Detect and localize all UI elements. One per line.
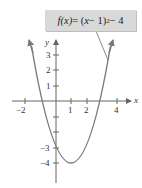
y-tick-label: 3 [46, 51, 51, 60]
callout-rest: − 1) [89, 15, 106, 26]
callout-tail: − 4 [110, 15, 124, 26]
x-tick-label: −2 [16, 106, 26, 115]
y-tick-label: 2 [46, 66, 51, 75]
curve-left-arrow-icon [29, 40, 33, 53]
x-axis-label: x [134, 96, 138, 105]
x-tick-label: 1 [68, 106, 73, 115]
y-tick-label: −3 [40, 144, 50, 153]
function-callout: f(x) = (x − 1)2 − 4 [45, 10, 136, 31]
curve-right-arrow-icon [109, 40, 113, 53]
x-tick-label: 4 [114, 106, 119, 115]
callout-pointer [96, 31, 108, 60]
y-axis-label: y [45, 38, 49, 47]
callout-arg: (x) [60, 15, 72, 26]
x-tick-label: 2 [84, 106, 89, 115]
callout-eq: = ( [72, 15, 84, 26]
y-tick-label: 1 [46, 82, 51, 91]
y-tick-label: −4 [40, 159, 50, 168]
